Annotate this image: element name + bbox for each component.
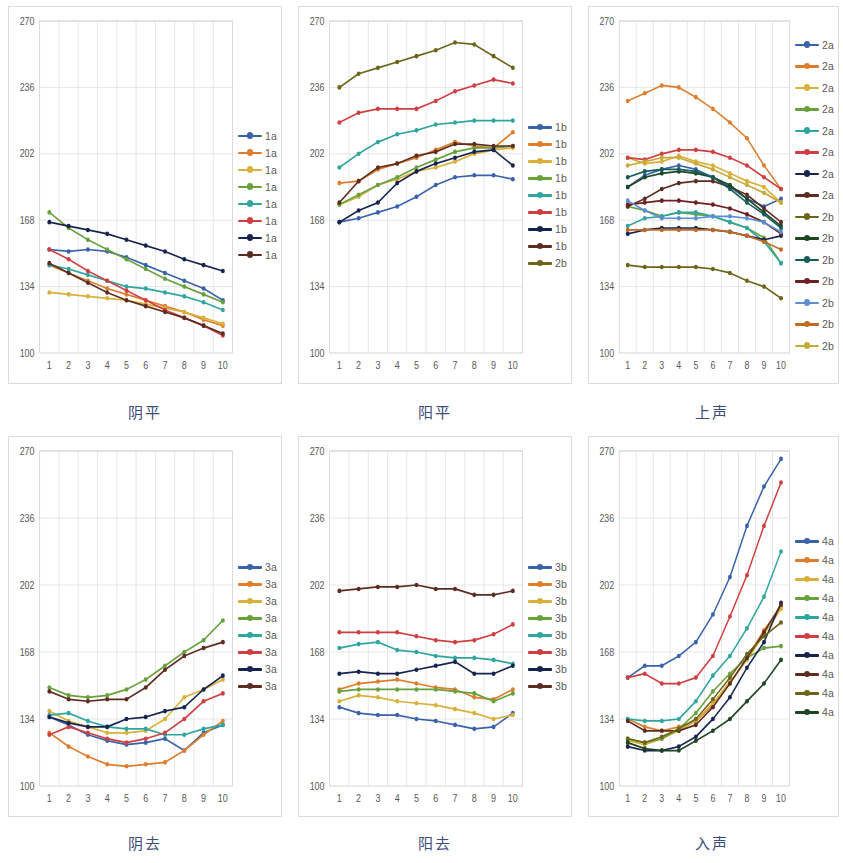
legend-item[interactable]: 4a: [795, 703, 834, 722]
legend-item[interactable]: 1b: [528, 187, 567, 204]
svg-text:5: 5: [124, 359, 130, 371]
legend-yangping: 1b1b1b1b1b1b1b1b2b: [526, 7, 571, 383]
legend-item[interactable]: 3b: [528, 661, 567, 678]
svg-text:100: 100: [310, 780, 325, 792]
legend-swatch-icon: [795, 104, 819, 115]
legend-item[interactable]: 2a: [795, 163, 834, 185]
legend-item[interactable]: 4a: [795, 646, 834, 665]
legend-item[interactable]: 1a: [238, 195, 277, 212]
legend-item[interactable]: 2a: [795, 141, 834, 163]
line-chart-yangping: 10013416820223627012345678910: [299, 7, 526, 383]
legend-item[interactable]: 3b: [528, 576, 567, 593]
plot-area-yinqu: 10013416820223627012345678910: [9, 437, 236, 816]
legend-shangsheng: 2a2a2a2a2a2a2a2a2b2b2b2b2b2b2b: [793, 7, 838, 383]
svg-text:1: 1: [47, 359, 52, 371]
legend-swatch-icon: [795, 650, 819, 661]
svg-text:7: 7: [453, 359, 458, 371]
chart-panel: 10013416820223627012345678910 3a3a3a3a3a…: [8, 436, 282, 817]
legend-item[interactable]: 2b: [795, 227, 834, 249]
legend-item[interactable]: 3a: [238, 559, 277, 576]
legend-item[interactable]: 1b: [528, 153, 567, 170]
legend-item-label: 1a: [265, 130, 277, 142]
legend-item[interactable]: 1a: [238, 178, 277, 195]
svg-text:202: 202: [599, 148, 614, 160]
legend-item[interactable]: 2b: [528, 255, 567, 272]
legend-item[interactable]: 3b: [528, 593, 567, 610]
legend-swatch-icon: [795, 593, 819, 604]
legend-item[interactable]: 2b: [795, 206, 834, 228]
legend-item[interactable]: 3b: [528, 610, 567, 627]
legend-item[interactable]: 3a: [238, 644, 277, 661]
legend-item-label: 3b: [555, 595, 567, 607]
legend-item[interactable]: 3a: [238, 610, 277, 627]
svg-text:2: 2: [642, 359, 647, 371]
svg-text:3: 3: [375, 359, 380, 371]
legend-item-label: 1a: [265, 215, 277, 227]
legend-swatch-icon: [795, 254, 819, 265]
legend-swatch-icon: [795, 39, 819, 50]
legend-item-label: 3b: [555, 646, 567, 658]
legend-item[interactable]: 1a: [238, 127, 277, 144]
legend-item[interactable]: 3a: [238, 661, 277, 678]
legend-swatch-icon: [795, 612, 819, 623]
legend-item[interactable]: 2a: [795, 55, 834, 77]
legend-item[interactable]: 4a: [795, 665, 834, 684]
legend-item-label: 2b: [555, 257, 567, 269]
legend-swatch-icon: [795, 555, 819, 566]
legend-item-label: 2b: [822, 254, 834, 266]
legend-item[interactable]: 1b: [528, 204, 567, 221]
legend-item[interactable]: 3a: [238, 627, 277, 644]
legend-item-label: 3a: [265, 595, 277, 607]
legend-item[interactable]: 1b: [528, 136, 567, 153]
chart-cell-rusheng: 10013416820223627012345678910 4a4a4a4a4a…: [580, 430, 843, 863]
legend-item-label: 3a: [265, 680, 277, 692]
legend-swatch-icon: [238, 596, 262, 607]
legend-swatch-icon: [528, 156, 552, 167]
svg-text:100: 100: [20, 347, 35, 359]
legend-item[interactable]: 1a: [238, 246, 277, 263]
legend-item[interactable]: 4a: [795, 551, 834, 570]
svg-text:3: 3: [85, 792, 90, 804]
legend-item[interactable]: 4a: [795, 570, 834, 589]
legend-swatch-icon: [795, 340, 819, 351]
legend-item[interactable]: 3a: [238, 576, 277, 593]
legend-item[interactable]: 2a: [795, 77, 834, 99]
legend-item[interactable]: 2a: [795, 34, 834, 56]
legend-item[interactable]: 3b: [528, 627, 567, 644]
legend-item[interactable]: 1a: [238, 161, 277, 178]
legend-item[interactable]: 1b: [528, 119, 567, 136]
legend-item[interactable]: 4a: [795, 532, 834, 551]
legend-item[interactable]: 4a: [795, 627, 834, 646]
legend-item[interactable]: 2a: [795, 98, 834, 120]
legend-item[interactable]: 1b: [528, 170, 567, 187]
legend-item[interactable]: 1a: [238, 144, 277, 161]
legend-item[interactable]: 2a: [795, 184, 834, 206]
legend-item[interactable]: 3a: [238, 678, 277, 695]
legend-swatch-icon: [795, 669, 819, 680]
legend-item[interactable]: 1b: [528, 238, 567, 255]
legend-item[interactable]: 2b: [795, 292, 834, 314]
legend-item[interactable]: 1b: [528, 221, 567, 238]
legend-item[interactable]: 2b: [795, 335, 834, 357]
panel-caption-rusheng: 入声: [580, 832, 843, 853]
legend-item[interactable]: 4a: [795, 589, 834, 608]
legend-item[interactable]: 2b: [795, 249, 834, 271]
legend-item[interactable]: 1a: [238, 212, 277, 229]
svg-text:7: 7: [727, 359, 732, 371]
svg-text:4: 4: [395, 792, 401, 804]
legend-item[interactable]: 2b: [795, 270, 834, 292]
legend-item[interactable]: 4a: [795, 684, 834, 703]
legend-item[interactable]: 2b: [795, 313, 834, 335]
svg-text:7: 7: [163, 359, 168, 371]
svg-text:270: 270: [599, 445, 614, 457]
legend-item[interactable]: 3b: [528, 678, 567, 695]
legend-item[interactable]: 1a: [238, 229, 277, 246]
legend-item[interactable]: 3a: [238, 593, 277, 610]
legend-item[interactable]: 3b: [528, 644, 567, 661]
chart-cell-yangqu: 10013416820223627012345678910 3b3b3b3b3b…: [290, 430, 580, 863]
legend-item[interactable]: 4a: [795, 608, 834, 627]
legend-swatch-icon: [795, 82, 819, 93]
legend-item[interactable]: 2a: [795, 120, 834, 142]
chart-cell-shangsheng: 10013416820223627012345678910 2a2a2a2a2a…: [580, 0, 843, 430]
legend-item[interactable]: 3b: [528, 559, 567, 576]
